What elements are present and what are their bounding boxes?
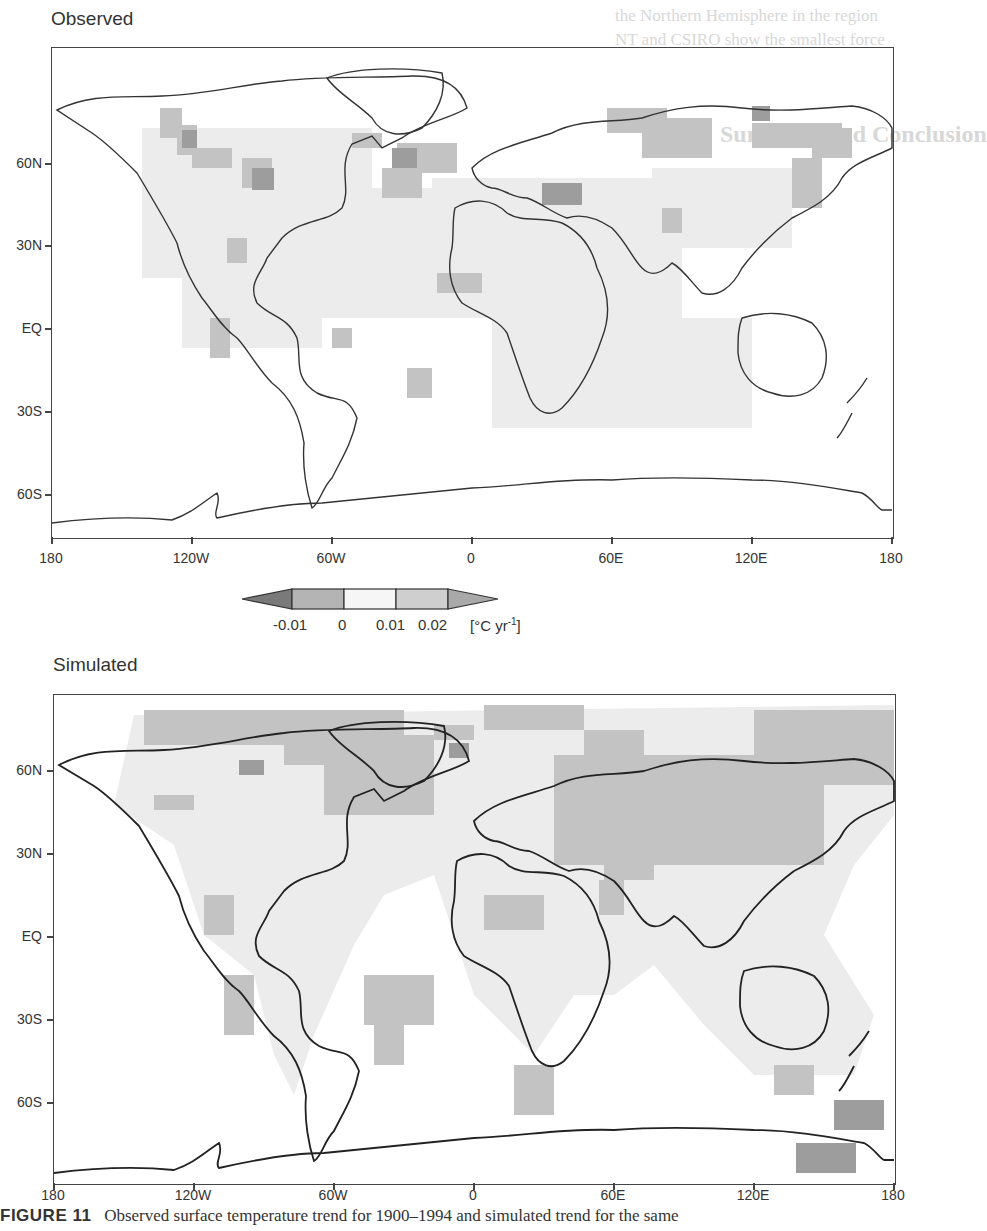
- observed-ytick-30s: [45, 411, 51, 413]
- observed-ytick-label-30s: 30S: [2, 403, 42, 419]
- simulated-map: [53, 694, 896, 1185]
- observed-ytick-30n: [45, 245, 51, 247]
- observed-ytick-label-60n: 60N: [2, 155, 42, 171]
- colorbar-label-neg001: -0.01: [273, 616, 307, 633]
- observed-ytick-eq: [45, 328, 51, 330]
- simulated-ytick-label-60n: 60N: [2, 762, 42, 778]
- simulated-xtick-label-120e: 120E: [723, 1187, 783, 1203]
- observed-xtick-label-0: 0: [441, 550, 501, 566]
- colorbar-unit-suffix: ]: [517, 617, 521, 634]
- simulated-xtick-label-180w: 180: [23, 1187, 83, 1203]
- simulated-ytick-30s: [47, 1019, 53, 1021]
- colorbar-label-002: 0.02: [418, 616, 447, 633]
- observed-xtick-label-60w: 60W: [301, 550, 361, 566]
- colorbar-low-arrow: [242, 589, 292, 609]
- observed-ytick-label-eq: EQ: [2, 320, 42, 336]
- simulated-xtick-label-60e: 60E: [583, 1187, 643, 1203]
- observed-xtick: [751, 537, 753, 544]
- colorbar-high-arrow: [448, 589, 498, 609]
- observed-xtick-label-180w: 180: [21, 550, 81, 566]
- bleed-line: the Northern Hemisphere in the region: [615, 4, 885, 28]
- observed-map-graphic: [52, 48, 893, 538]
- observed-ytick-60s: [45, 494, 51, 496]
- observed-xtick-label-60e: 60E: [581, 550, 641, 566]
- simulated-xtick-label-0: 0: [443, 1187, 503, 1203]
- observed-xtick: [891, 537, 893, 544]
- colorbar-label-001: 0.01: [376, 616, 405, 633]
- simulated-ytick-eq: [47, 936, 53, 938]
- simulated-ytick-label-30s: 30S: [2, 1011, 42, 1027]
- observed-ytick-60n: [45, 163, 51, 165]
- observed-panel-title: Observed: [51, 8, 133, 30]
- simulated-ytick-30n: [47, 853, 53, 855]
- bleed-through-text: the Northern Hemisphere in the region NT…: [615, 4, 885, 52]
- figure-caption-text: Observed surface temperature trend for 1…: [104, 1206, 679, 1225]
- simulated-ytick-label-eq: EQ: [2, 928, 42, 944]
- colorbar-unit: [°C yr-1]: [470, 616, 521, 634]
- simulated-map-graphic: [54, 695, 895, 1184]
- observed-xtick-label-120w: 120W: [161, 550, 221, 566]
- observed-xtick-label-180e: 180: [861, 550, 921, 566]
- observed-ytick-label-60s: 60S: [2, 486, 42, 502]
- observed-xtick: [191, 537, 193, 544]
- observed-xtick-label-120e: 120E: [721, 550, 781, 566]
- observed-xtick: [611, 537, 613, 544]
- figure-caption-label: FIGURE 11: [0, 1206, 91, 1225]
- simulated-ytick-label-30n: 30N: [2, 845, 42, 861]
- colorbar-seg-2: [344, 589, 396, 609]
- observed-ytick-label-30n: 30N: [2, 237, 42, 253]
- observed-xtick: [471, 537, 473, 544]
- simulated-xtick-label-120w: 120W: [163, 1187, 223, 1203]
- colorbar-seg-1: [292, 589, 344, 609]
- colorbar-label-0: 0: [338, 616, 346, 633]
- simulated-ytick-60n: [47, 770, 53, 772]
- simulated-panel-title: Simulated: [53, 654, 138, 676]
- observed-xtick: [51, 537, 53, 544]
- colorbar-unit-prefix: [°C yr: [470, 617, 508, 634]
- observed-map: [51, 47, 894, 539]
- simulated-ytick-60s: [47, 1102, 53, 1104]
- figure-caption: FIGURE 11 Observed surface temperature t…: [0, 1206, 679, 1226]
- observed-xtick: [331, 537, 333, 544]
- colorbar: [240, 586, 610, 612]
- simulated-xtick-label-180e: 180: [863, 1187, 923, 1203]
- colorbar-unit-exp: -1: [508, 616, 517, 627]
- simulated-xtick-label-60w: 60W: [303, 1187, 363, 1203]
- simulated-ytick-label-60s: 60S: [2, 1094, 42, 1110]
- colorbar-seg-3: [396, 589, 448, 609]
